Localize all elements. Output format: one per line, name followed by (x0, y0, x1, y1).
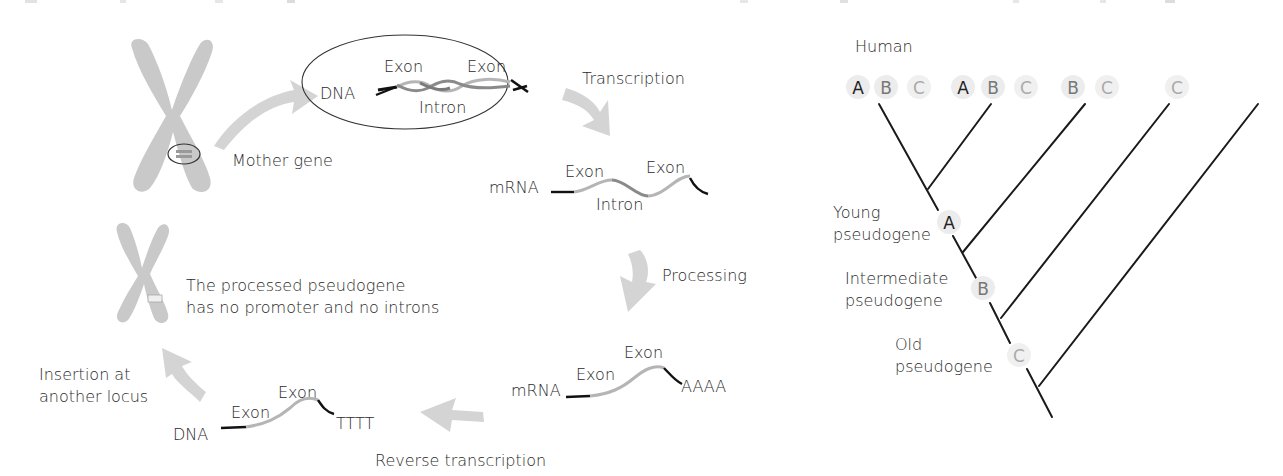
pseudogene-figure: Mother gene DNA Exon Exon Intron Transcr… (0, 0, 1283, 476)
polyt-label: TTTT (336, 414, 374, 433)
species-label-human: Human (855, 37, 913, 56)
node-old-pseudogene: C Old pseudogene (895, 335, 1031, 376)
tip-circle-a: A (951, 75, 975, 99)
mrna-processed: mRNA Exon Exon AAAA (511, 343, 726, 400)
mrna-label: mRNA (489, 178, 539, 197)
node-label-line2: pseudogene (833, 225, 931, 244)
intron-label: Intron (419, 98, 466, 117)
gene-detail-ellipse: DNA Exon Exon Intron (302, 35, 528, 129)
exon-label-2: Exon (624, 343, 663, 362)
insertion-arrow-icon (162, 348, 206, 402)
node-label-line1: Old (895, 335, 922, 354)
reverse-transcription-label: Reverse transcription (375, 451, 546, 470)
tip-circle-c: C (907, 75, 931, 99)
transcription-label: Transcription (582, 69, 685, 88)
node-label-line2: pseudogene (845, 291, 943, 310)
insertion-label-line1: Insertion at (39, 365, 130, 384)
mrna-label: mRNA (511, 381, 561, 400)
processing-arrow-icon (620, 250, 656, 312)
tip-circle-b: B (1061, 75, 1085, 99)
processing-label: Processing (662, 266, 747, 285)
svg-text:C: C (1013, 346, 1025, 366)
svg-text:A: A (957, 78, 969, 98)
polya-label: AAAA (681, 377, 726, 396)
svg-text:B: B (1067, 78, 1079, 98)
svg-text:A: A (852, 78, 864, 98)
tip-circle-c: C (1095, 75, 1119, 99)
tip-circle-c: C (1014, 75, 1038, 99)
mother-chromosome-icon (131, 39, 213, 192)
exon-label-2: Exon (646, 158, 685, 177)
dna-label: DNA (173, 425, 208, 444)
pseudogene-note-line1: The processed pseudogene (186, 276, 405, 295)
cropped-top-text-remnants (25, 0, 1175, 3)
node-label-line2: pseudogene (895, 357, 993, 376)
svg-text:C: C (913, 78, 925, 98)
target-chromosome-icon (117, 223, 170, 323)
node-young-pseudogene: A Young pseudogene (833, 203, 961, 244)
exon-label-2: Exon (467, 57, 506, 76)
transcription-arrow-icon (562, 88, 610, 136)
exon-label-1: Exon (231, 403, 270, 422)
svg-text:C: C (1171, 78, 1183, 98)
svg-text:C: C (1020, 78, 1032, 98)
intron-label: Intron (596, 195, 643, 214)
exon-label-1: Exon (576, 365, 615, 384)
tip-circle-c: C (1165, 75, 1189, 99)
dna-label: DNA (320, 84, 355, 103)
exon-label-1: Exon (565, 162, 604, 181)
node-label-line1: Intermediate (845, 269, 948, 288)
svg-text:C: C (1101, 78, 1113, 98)
mother-gene-label: Mother gene (232, 151, 333, 170)
tip-circle-b: B (981, 75, 1005, 99)
svg-text:B: B (880, 78, 892, 98)
reverse-transcription-arrow-icon (420, 398, 484, 432)
tip-letters: A B C A B C B C (846, 75, 1189, 99)
svg-text:B: B (977, 279, 989, 299)
exon-label-1: Exon (384, 57, 423, 76)
node-intermediate-pseudogene: B Intermediate pseudogene (845, 269, 995, 310)
pseudogene-note-line2: has no promoter and no introns (186, 298, 439, 317)
node-label-line1: Young (833, 203, 880, 222)
insertion-label-line2: another locus (39, 387, 148, 406)
svg-text:B: B (987, 78, 999, 98)
mrna-precursor: mRNA Exon Exon Intron (489, 158, 708, 214)
tip-circle-b: B (874, 75, 898, 99)
tip-circle-a: A (846, 75, 870, 99)
svg-text:A: A (943, 213, 955, 233)
arrow-to-gene-detail-icon (214, 80, 318, 150)
